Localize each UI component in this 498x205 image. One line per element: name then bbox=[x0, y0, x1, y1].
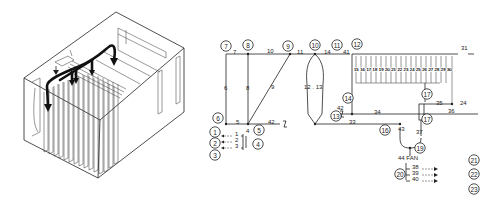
bus-channel-label: 21 bbox=[391, 67, 396, 72]
svg-text:12: 12 bbox=[353, 41, 361, 48]
svg-text:1: 1 bbox=[213, 129, 217, 136]
edge-label: 10 bbox=[267, 48, 274, 54]
node-circle-17: 17 bbox=[422, 89, 432, 99]
node-circle-16: 16 bbox=[380, 125, 390, 135]
svg-text:9: 9 bbox=[286, 43, 290, 50]
svg-text:6: 6 bbox=[216, 115, 220, 122]
bus-channel-label: 30 bbox=[447, 67, 452, 72]
bus-channel-label: 17 bbox=[366, 67, 371, 72]
node-circle-17: 17 bbox=[422, 114, 432, 124]
node-circle-9: 9 bbox=[283, 41, 293, 51]
bus-channel-label: 27 bbox=[428, 67, 433, 72]
edge-label: 40 bbox=[412, 176, 419, 182]
bus-channel-label: 15 bbox=[354, 67, 359, 72]
svg-text:21: 21 bbox=[470, 157, 478, 164]
node-circle-11: 11 bbox=[332, 40, 342, 50]
node-circle-10: 10 bbox=[310, 40, 320, 50]
svg-text:13: 13 bbox=[332, 113, 340, 120]
edge-label: 4 bbox=[246, 128, 250, 134]
node-circle-12: 12 bbox=[352, 39, 362, 49]
edge-labels: 7101114413168912 . 135424123423433352436… bbox=[224, 45, 468, 182]
edge-label: 14 bbox=[324, 49, 331, 55]
enclosure-illustration bbox=[24, 12, 184, 178]
bus-channel-label: 24 bbox=[410, 67, 415, 72]
svg-text:10: 10 bbox=[311, 42, 319, 49]
edge-label: 24 bbox=[460, 100, 467, 106]
svg-text:2: 2 bbox=[213, 140, 217, 147]
node-circle-1: 1 bbox=[210, 127, 220, 137]
node-circle-13: 13 bbox=[331, 111, 341, 121]
edge-label: 31 bbox=[461, 45, 468, 51]
svg-text:19: 19 bbox=[416, 145, 424, 152]
node-circle-4: 4 bbox=[253, 139, 263, 149]
node-circle-2: 2 bbox=[210, 138, 220, 148]
node-circle-8: 8 bbox=[243, 40, 253, 50]
svg-text:8: 8 bbox=[246, 42, 250, 49]
node-circle-20: 20 bbox=[395, 169, 405, 179]
bus-channel-label: 16 bbox=[360, 67, 365, 72]
edge-label: 9 bbox=[271, 84, 275, 90]
edge-label: 8 bbox=[246, 85, 250, 91]
bus-channel-label: 18 bbox=[373, 67, 378, 72]
bus-channel-label: 26 bbox=[422, 67, 427, 72]
bus-channel-label: 25 bbox=[416, 67, 421, 72]
edge-label: 6 bbox=[224, 85, 228, 91]
edge-label: 43 bbox=[398, 126, 405, 132]
bus-channel-label: 20 bbox=[385, 67, 390, 72]
node-circle-3: 3 bbox=[210, 150, 220, 160]
svg-text:3: 3 bbox=[213, 152, 217, 159]
edge-label: 33 bbox=[349, 119, 356, 125]
edge-label: 12 . 13 bbox=[304, 84, 323, 90]
node-circle-14: 14 bbox=[343, 93, 353, 103]
bus-channel-label: 22 bbox=[397, 67, 402, 72]
node-circle-7: 7 bbox=[221, 41, 231, 51]
node-circle-23: 23 bbox=[469, 184, 479, 194]
edge-label: 37 bbox=[416, 129, 423, 135]
edge-label: 41 bbox=[343, 49, 350, 55]
edge-label: 35 bbox=[436, 100, 443, 106]
svg-text:14: 14 bbox=[344, 95, 352, 102]
node-circle-6: 6 bbox=[213, 113, 223, 123]
bus-channel-label: 23 bbox=[404, 67, 409, 72]
bus-channels bbox=[356, 56, 452, 104]
svg-text:7: 7 bbox=[224, 43, 228, 50]
figure-canvas: 78910111265123413141617171921202223 7101… bbox=[0, 0, 498, 205]
edge-label: 44 FAN bbox=[398, 155, 418, 161]
node-circle-21: 21 bbox=[469, 155, 479, 165]
bus-channel-labels: 1515161617171818191920202121222223232424… bbox=[354, 67, 452, 72]
svg-text:17: 17 bbox=[423, 116, 431, 123]
node-circles: 78910111265123413141617171921202223 bbox=[210, 39, 479, 194]
svg-text:16: 16 bbox=[381, 127, 389, 134]
svg-text:11: 11 bbox=[334, 42, 341, 49]
svg-text:4: 4 bbox=[256, 141, 260, 148]
svg-text:5: 5 bbox=[257, 127, 261, 134]
edge-label: 34 bbox=[374, 109, 381, 115]
svg-text:17: 17 bbox=[423, 91, 431, 98]
svg-text:22: 22 bbox=[470, 171, 478, 178]
edge-label: 36 bbox=[448, 108, 455, 114]
fin-plates bbox=[44, 74, 118, 174]
node-circle-19: 19 bbox=[415, 143, 425, 153]
node-circle-22: 22 bbox=[469, 169, 479, 179]
edge-label: 42 bbox=[337, 105, 344, 111]
svg-text:23: 23 bbox=[470, 186, 478, 193]
bus-channel-label: 28 bbox=[435, 67, 440, 72]
schematic-network bbox=[221, 53, 478, 183]
bus-channel-label: 19 bbox=[379, 67, 384, 72]
svg-text:20: 20 bbox=[396, 171, 404, 178]
edge-label: 3 bbox=[235, 143, 239, 149]
node-circle-5: 5 bbox=[254, 125, 264, 135]
bus-channel-label: 29 bbox=[441, 67, 446, 72]
edge-label: 42 bbox=[268, 119, 275, 125]
edge-label: 11 bbox=[297, 49, 304, 55]
